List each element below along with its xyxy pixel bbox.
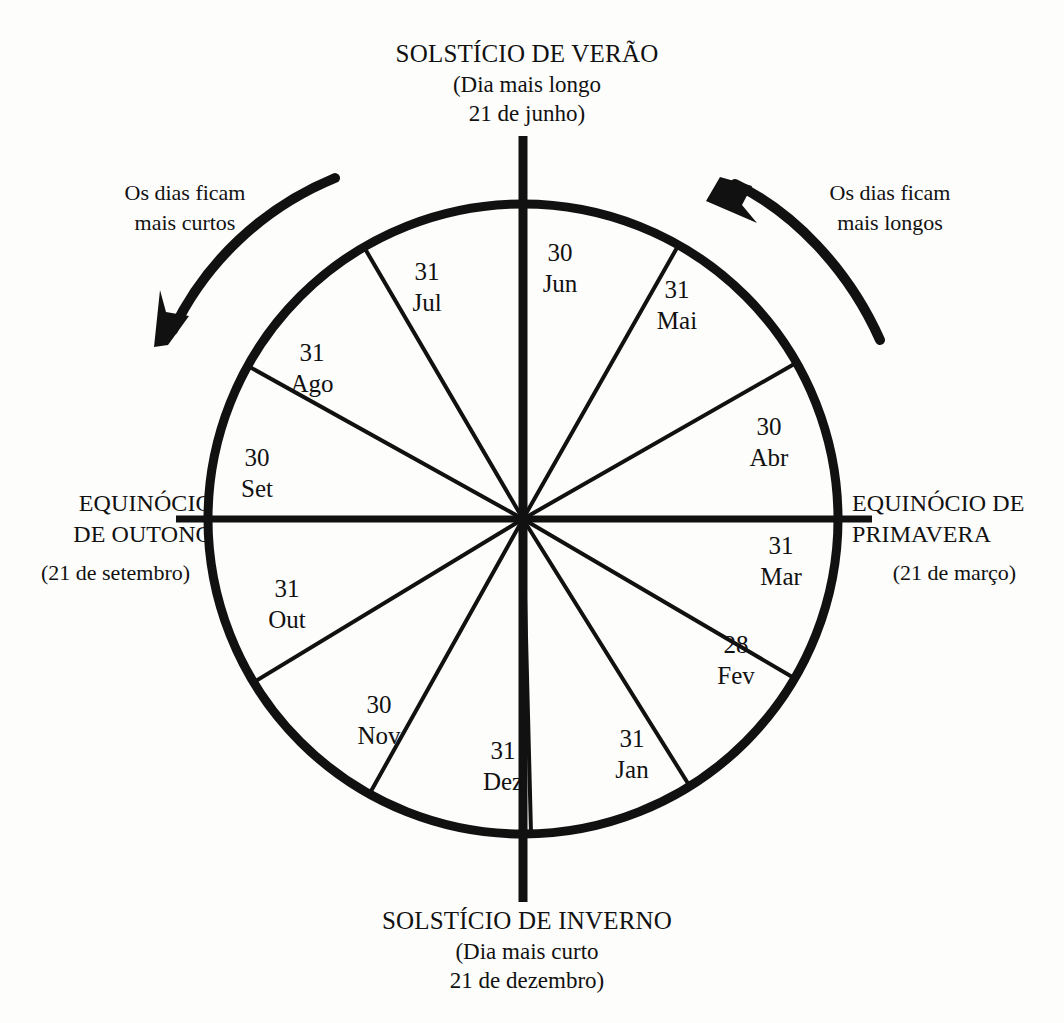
month-days-count: 31 — [483, 736, 523, 767]
spring-equinox-date: (21 de março) — [852, 559, 1057, 587]
month-sector-dez: 31Dez — [483, 736, 523, 797]
month-sector-ago: 31Ago — [290, 338, 333, 399]
summer-solstice-heading: SOLSTÍCIO DE VERÃO — [332, 38, 722, 70]
month-abbreviation: Out — [268, 604, 306, 635]
summer-solstice-caption: SOLSTÍCIO DE VERÃO (Dia mais longo 21 de… — [332, 38, 722, 129]
month-days-count: 31 — [290, 338, 333, 369]
month-days-count: 31 — [760, 531, 802, 562]
month-sector-out: 31Out — [268, 574, 306, 635]
autumn-equinox-caption: EQUINÓCIO DE OUTONO (21 de setembro) — [18, 488, 213, 588]
month-abbreviation: Set — [241, 473, 273, 504]
month-sector-mai: 31Mai — [657, 275, 697, 336]
month-sector-nov: 30Nov — [357, 690, 400, 751]
summer-solstice-line2: (Dia mais longo — [332, 70, 722, 99]
spring-equinox-caption: EQUINÓCIO DE PRIMAVERA (21 de março) — [852, 488, 1057, 588]
month-abbreviation: Mar — [760, 561, 802, 592]
winter-solstice-heading: SOLSTÍCIO DE INVERNO — [332, 905, 722, 937]
month-sector-set: 30Set — [241, 443, 273, 504]
days-longer-line1: Os dias ficam — [790, 178, 990, 208]
month-days-count: 30 — [241, 443, 273, 474]
autumn-equinox-date: (21 de setembro) — [18, 559, 213, 587]
month-abbreviation: Ago — [290, 368, 333, 399]
autumn-equinox-line2: DE OUTONO — [18, 519, 213, 550]
days-longer-note: Os dias ficam mais longos — [790, 178, 990, 237]
month-abbreviation: Jul — [412, 287, 441, 318]
month-sector-jun: 30Jun — [543, 238, 578, 299]
month-abbreviation: Jun — [543, 268, 578, 299]
spring-equinox-line2: PRIMAVERA — [852, 519, 1057, 550]
month-abbreviation: Jan — [615, 754, 648, 785]
winter-solstice-line3: 21 de dezembro) — [332, 966, 722, 995]
month-days-count: 31 — [412, 257, 441, 288]
days-longer-line2: mais longos — [790, 208, 990, 238]
month-sector-fev: 28Fev — [717, 630, 755, 691]
month-days-count: 30 — [357, 690, 400, 721]
month-days-count: 30 — [750, 412, 789, 443]
month-abbreviation: Nov — [357, 720, 400, 751]
winter-solstice-caption: SOLSTÍCIO DE INVERNO (Dia mais curto 21 … — [332, 905, 722, 996]
autumn-equinox-line1: EQUINÓCIO — [18, 488, 213, 519]
days-shorter-line1: Os dias ficam — [85, 178, 285, 208]
days-shorter-note: Os dias ficam mais curtos — [85, 178, 285, 237]
winter-solstice-line2: (Dia mais curto — [332, 937, 722, 966]
seasons-wheel-diagram: SOLSTÍCIO DE VERÃO (Dia mais longo 21 de… — [0, 0, 1064, 1023]
month-abbreviation: Mai — [657, 305, 697, 336]
month-sector-mar: 31Mar — [760, 531, 802, 592]
month-abbreviation: Fev — [717, 660, 755, 691]
month-abbreviation: Dez — [483, 766, 523, 797]
month-abbreviation: Abr — [750, 442, 789, 473]
month-sector-abr: 30Abr — [750, 412, 789, 473]
month-days-count: 31 — [657, 275, 697, 306]
month-sector-jul: 31Jul — [412, 257, 441, 318]
month-days-count: 28 — [717, 630, 755, 661]
month-days-count: 31 — [268, 574, 306, 605]
month-days-count: 31 — [615, 724, 648, 755]
spring-equinox-line1: EQUINÓCIO DE — [852, 488, 1057, 519]
days-shorter-line2: mais curtos — [85, 208, 285, 238]
summer-solstice-line3: 21 de junho) — [332, 99, 722, 128]
month-days-count: 30 — [543, 238, 578, 269]
month-sector-jan: 31Jan — [615, 724, 648, 785]
